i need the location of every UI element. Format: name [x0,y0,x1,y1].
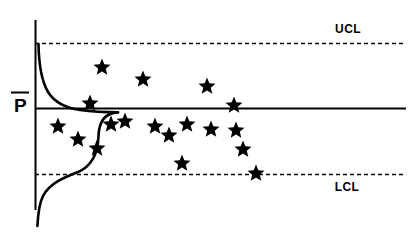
data-point-star [94,59,111,75]
chart-canvas: P UCL LCL [0,0,420,240]
data-point-star [203,121,220,137]
data-point-star [117,113,134,129]
data-point-star [161,127,178,143]
p-control-chart: P UCL LCL [0,0,420,240]
data-point-star [248,165,265,181]
data-point-star [135,71,152,87]
lcl-label: LCL [335,180,360,194]
data-point-star [199,78,216,94]
data-point-star [147,118,164,134]
upper-variable-limit-curve [39,44,119,112]
data-point-star [174,155,191,171]
lower-variable-limit-curve [37,112,118,226]
ucl-label: UCL [335,22,361,36]
data-point-star [179,116,196,132]
data-point-star [226,97,243,113]
data-points-layer [50,59,265,181]
data-point-star [50,118,67,134]
data-point-star [70,131,87,147]
data-point-star [228,122,245,138]
center-line-label: P [11,93,29,117]
data-point-star [235,141,252,157]
data-point-star [89,140,106,156]
p-bar-letter: P [14,95,27,116]
